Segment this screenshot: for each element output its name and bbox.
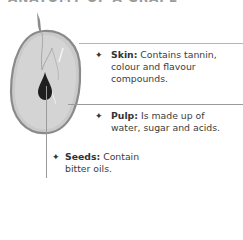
bullet-icon: ✦ (95, 50, 103, 60)
text: compounds. (111, 73, 217, 85)
bullet-icon: ✦ (52, 152, 60, 162)
text: water, sugar and acids. (111, 122, 220, 134)
text: Is made up of (138, 110, 205, 121)
annotation-pulp: Pulp: Is made up of water, sugar and aci… (111, 110, 220, 134)
text: Contains tannin, (137, 49, 216, 60)
bullet-icon: ✦ (95, 111, 103, 121)
term: Seeds: (65, 151, 100, 162)
text: Contain (100, 151, 139, 162)
text: colour and flavour (111, 61, 217, 73)
annotation-seeds: Seeds: Contain bitter oils. (65, 151, 139, 175)
term: Pulp: (111, 110, 138, 121)
text: bitter oils. (65, 163, 139, 175)
annotation-skin: Skin: Contains tannin, colour and flavou… (111, 49, 217, 86)
term: Skin: (111, 49, 137, 60)
